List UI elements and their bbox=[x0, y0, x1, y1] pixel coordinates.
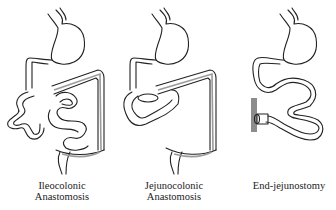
ileocolonic-anatomy-drawing bbox=[0, 0, 112, 175]
panel-ileocolonic: Ileocolonic Anastomosis bbox=[0, 0, 112, 210]
caption-line: Anastomosis bbox=[28, 191, 96, 202]
caption-line: End-jejunostomy bbox=[244, 180, 334, 191]
caption-end-jejunostomy: End-jejunostomy bbox=[244, 180, 334, 191]
caption-line: Anastomosis bbox=[138, 191, 210, 202]
panel-jejunocolonic: Jejunocolonic Anastomosis bbox=[112, 0, 224, 210]
caption-line: Ileocolonic bbox=[28, 180, 96, 191]
end-jejunostomy-anatomy-drawing bbox=[224, 0, 336, 175]
jejunocolonic-anatomy-drawing bbox=[112, 0, 224, 175]
panel-end-jejunostomy: End-jejunostomy bbox=[224, 0, 336, 210]
caption-line: Jejunocolonic bbox=[138, 180, 210, 191]
caption-jejunocolonic: Jejunocolonic Anastomosis bbox=[138, 180, 210, 202]
caption-ileocolonic: Ileocolonic Anastomosis bbox=[28, 180, 96, 202]
